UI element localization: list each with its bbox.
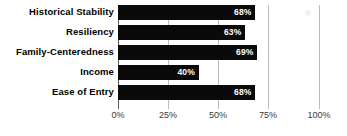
x-tick-label: 25% <box>159 110 177 120</box>
bar-track: 68% <box>118 82 320 102</box>
bar-rows: Historical Stability 68% Resiliency 63% … <box>0 2 347 104</box>
x-tick-label: 50% <box>209 110 227 120</box>
table-row: Family-Centeredness 69% <box>0 42 347 62</box>
table-row: Historical Stability 68% <box>0 2 347 22</box>
x-tick-label: 100% <box>307 110 330 120</box>
category-label: Family-Centeredness <box>16 42 114 62</box>
bar-track: 40% <box>118 62 320 82</box>
category-label: Income <box>80 62 114 82</box>
bar: 68% <box>118 5 255 20</box>
bar-value-label: 40% <box>177 65 194 80</box>
x-tick-label: 75% <box>259 110 277 120</box>
table-row: Income 40% <box>0 62 347 82</box>
bar-track: 63% <box>118 22 320 42</box>
horizontal-bar-chart: Historical Stability 68% Resiliency 63% … <box>0 0 347 136</box>
bar: 69% <box>118 45 257 60</box>
bar-value-label: 68% <box>234 85 251 100</box>
category-label: Resiliency <box>66 22 114 42</box>
table-row: Resiliency 63% <box>0 22 347 42</box>
table-row: Ease of Entry 68% <box>0 82 347 102</box>
x-axis: 0% 25% 50% 75% 100% <box>118 110 320 126</box>
bar: 68% <box>118 85 255 100</box>
bar-track: 69% <box>118 42 320 62</box>
bar-value-label: 68% <box>234 5 251 20</box>
x-tick-label: 0% <box>111 110 124 120</box>
category-label: Ease of Entry <box>52 82 114 102</box>
bar-value-label: 69% <box>236 45 253 60</box>
bar: 40% <box>118 65 199 80</box>
bar-track: 68% <box>118 2 320 22</box>
bar: 63% <box>118 25 245 40</box>
bar-value-label: 63% <box>224 25 241 40</box>
category-label: Historical Stability <box>29 2 114 22</box>
